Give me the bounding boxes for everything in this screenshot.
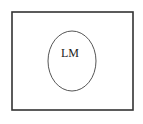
universe-rectangle	[12, 12, 133, 110]
set-ellipse-lm	[48, 31, 96, 91]
set-label-lm: LM	[61, 46, 79, 60]
venn-diagram: LM	[0, 0, 143, 124]
